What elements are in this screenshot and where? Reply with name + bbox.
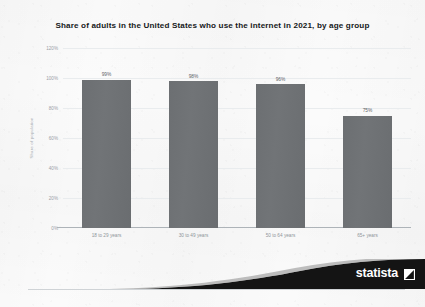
- bar[interactable]: 99%: [82, 80, 131, 229]
- bar-slot: 96%50 to 64 years: [237, 48, 324, 228]
- bar-slot: 99%18 to 29 years: [63, 48, 150, 228]
- x-axis-category-label: 30 to 49 years: [150, 233, 237, 238]
- chart-footer: Source Pew Research Center © Statista 20…: [0, 247, 425, 307]
- bar-value-label: 99%: [82, 72, 131, 77]
- statista-wordmark: statista: [356, 266, 398, 280]
- bar-slot: 75%65+ years: [324, 48, 411, 228]
- y-axis-tick-label: 100%: [46, 76, 58, 81]
- bar[interactable]: 75%: [343, 116, 392, 229]
- statista-arrow-icon: [404, 269, 415, 280]
- bar-value-label: 75%: [343, 108, 392, 113]
- statista-logo-band: statista: [0, 259, 425, 289]
- y-axis-tick-label: 40%: [49, 166, 58, 171]
- chart-title: Share of adults in the United States who…: [0, 21, 425, 30]
- bar-slot: 98%30 to 49 years: [150, 48, 237, 228]
- bar[interactable]: 98%: [169, 81, 218, 228]
- x-axis-category-label: 18 to 29 years: [63, 233, 150, 238]
- y-axis-tick-label: 60%: [49, 136, 58, 141]
- x-axis-category-label: 65+ years: [324, 233, 411, 238]
- bar-value-label: 96%: [256, 77, 305, 82]
- y-axis-tick-label: 120%: [46, 46, 58, 51]
- y-axis-tick-label: 80%: [49, 106, 58, 111]
- x-axis-category-label: 50 to 64 years: [237, 233, 324, 238]
- y-axis-tick-label: 20%: [49, 196, 58, 201]
- bar[interactable]: 96%: [256, 84, 305, 228]
- statista-chart-page: Share of adults in the United States who…: [0, 0, 425, 307]
- plot-area: Share of population 0%20%40%60%80%100%12…: [63, 48, 411, 228]
- footer-rule: [28, 289, 405, 290]
- y-axis-title: Share of population: [29, 117, 34, 158]
- bar-value-label: 98%: [169, 74, 218, 79]
